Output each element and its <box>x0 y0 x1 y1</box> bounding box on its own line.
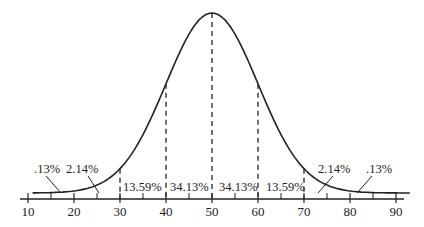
tick-label-40: 40 <box>160 204 173 219</box>
tick-label-90: 90 <box>390 204 403 219</box>
label-right-1sd-2sd: 13.59% <box>266 180 305 194</box>
tick-label-60: 60 <box>252 204 265 219</box>
label-left-1sd-2sd: 13.59% <box>123 180 162 194</box>
leader-line-right-214 <box>318 176 333 193</box>
tick-label-70: 70 <box>298 204 311 219</box>
label-left-tail: .13% <box>34 162 60 176</box>
tick-label-20: 20 <box>68 204 81 219</box>
normal-curve-diagram: 102030405060708090 .13% 2.14% 13.59% 34.… <box>0 0 424 227</box>
label-leader-lines <box>46 176 372 193</box>
tick-label-80: 80 <box>344 204 357 219</box>
label-left-2sd: 2.14% <box>66 162 98 176</box>
label-left-mean-1sd: 34.13% <box>170 180 209 194</box>
tick-label-10: 10 <box>22 204 35 219</box>
label-right-2sd: 2.14% <box>318 162 350 176</box>
leader-line-left-013 <box>46 176 61 193</box>
label-right-tail: .13% <box>366 162 392 176</box>
label-right-mean-1sd: 34.13% <box>219 180 258 194</box>
sd-dashed-lines <box>120 13 304 199</box>
axis-ticks: 102030405060708090 <box>22 193 403 219</box>
leader-line-right-013 <box>357 176 372 193</box>
tick-label-50: 50 <box>206 204 219 219</box>
tick-label-30: 30 <box>114 204 127 219</box>
